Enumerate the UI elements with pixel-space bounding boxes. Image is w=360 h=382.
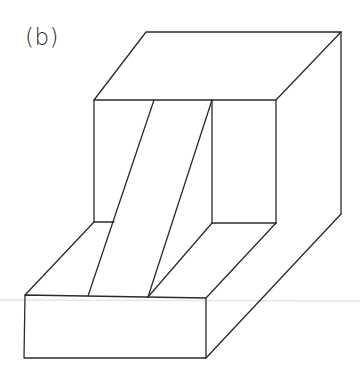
slanted-ramp: [88, 100, 212, 297]
channel-step-diagonal: [148, 223, 212, 297]
lower-block-front-face: [24, 295, 206, 358]
lower-step-block: [24, 295, 206, 358]
stepped-block-diagram: [0, 0, 360, 382]
scan-artifact-line: [0, 300, 360, 301]
upper-block: [94, 32, 341, 223]
left-step-diagonal: [25, 222, 94, 295]
ramp-right-edge: [148, 100, 212, 297]
back-bottom-diagonal: [206, 214, 341, 358]
ramp-left-edge: [88, 100, 154, 296]
right-step-diagonal: [206, 223, 276, 298]
upper-block-top-face: [94, 32, 341, 100]
connecting-diagonals: [25, 214, 341, 358]
